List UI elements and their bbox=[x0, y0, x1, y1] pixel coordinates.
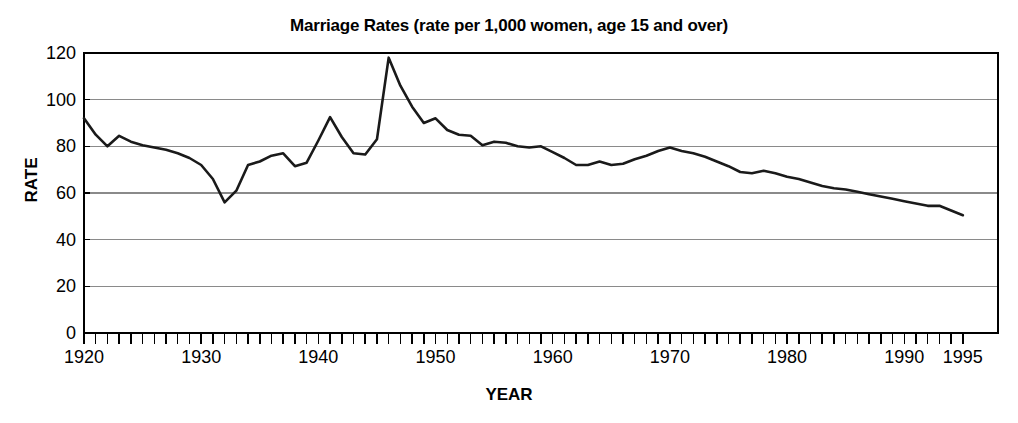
x-tick-label-1960: 1960 bbox=[513, 348, 593, 366]
x-tick-label-1970: 1970 bbox=[630, 348, 710, 366]
chart-figure: Marriage Rates (rate per 1,000 women, ag… bbox=[0, 0, 1018, 423]
x-minor-ticks bbox=[84, 334, 963, 344]
x-tick-label-1995: 1995 bbox=[923, 348, 1003, 366]
y-tick-label-0: 0 bbox=[14, 324, 76, 342]
x-tick-label-1950: 1950 bbox=[396, 348, 476, 366]
x-tick-label-1980: 1980 bbox=[747, 348, 827, 366]
x-axis-label: YEAR bbox=[0, 385, 1018, 405]
y-tick-label-60: 60 bbox=[14, 184, 76, 202]
x-tick-label-1940: 1940 bbox=[278, 348, 358, 366]
y-tick-label-80: 80 bbox=[14, 137, 76, 155]
x-tick-label-1930: 1930 bbox=[161, 348, 241, 366]
chart-title: Marriage Rates (rate per 1,000 women, ag… bbox=[0, 16, 1018, 36]
y-tick-label-20: 20 bbox=[14, 277, 76, 295]
data-line-marriage-rate bbox=[84, 58, 963, 216]
y-tick-label-100: 100 bbox=[14, 91, 76, 109]
y-tick-label-40: 40 bbox=[14, 231, 76, 249]
y-tick-label-120: 120 bbox=[14, 44, 76, 62]
x-tick-label-1920: 1920 bbox=[44, 348, 124, 366]
